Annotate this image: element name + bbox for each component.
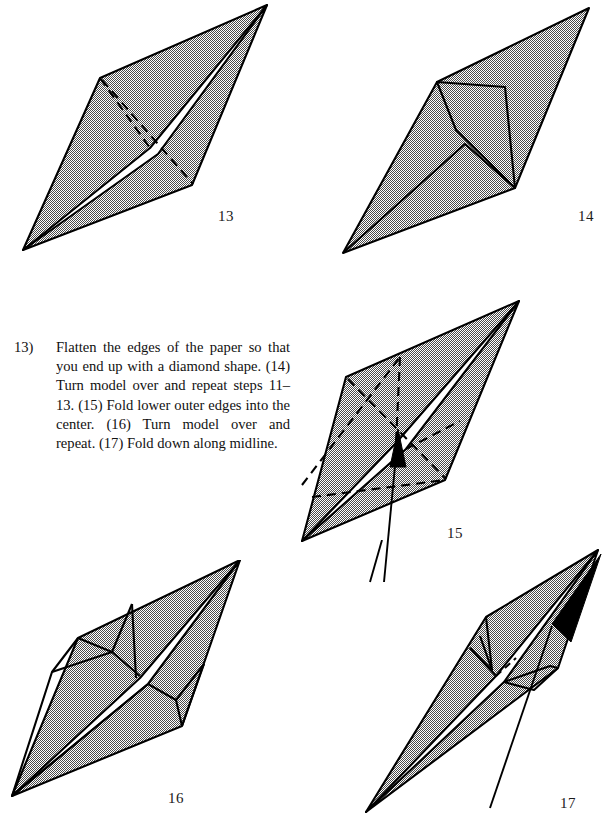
figure-14: 14: [310, 0, 614, 270]
figure-17: 17: [320, 540, 614, 831]
instruction-step-text: Flatten the edges of the paper so that y…: [56, 338, 290, 453]
figure-13: 13: [0, 0, 300, 270]
figure-17-drawing: [320, 540, 614, 831]
figure-16-label: 16: [168, 790, 184, 807]
figure-14-drawing: [310, 0, 614, 270]
figure-16-drawing: [0, 560, 300, 831]
figure-13-label: 13: [218, 208, 234, 225]
instruction-text-block: 13) Flatten the edges of the paper so th…: [14, 338, 290, 453]
figure-14-label: 14: [578, 208, 594, 225]
instruction-step-number: 13): [14, 338, 48, 357]
figure-16: 16: [0, 560, 300, 831]
figure-17-label: 17: [560, 795, 576, 812]
instruction-page: 13 14 13) Flatten the edges of the paper…: [0, 0, 614, 831]
figure-13-drawing: [0, 0, 300, 270]
